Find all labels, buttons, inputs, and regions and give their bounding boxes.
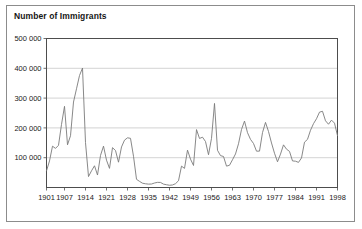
x-tick-label: 1914: [77, 193, 94, 202]
immigration-series-line: [47, 68, 338, 185]
x-tick-label: 1991: [308, 193, 325, 202]
y-tick-label: 500 000: [14, 34, 41, 43]
line-chart-svg: 500 000400 000300 000200 000100 000 1901…: [0, 0, 362, 229]
gridlines: [47, 39, 338, 158]
x-tick-label: 1901: [38, 193, 55, 202]
chart-plot-area: 500 000400 000300 000200 000100 000 1901…: [0, 0, 362, 229]
x-tick-label: 1956: [203, 193, 220, 202]
x-tick-label: 1970: [245, 193, 262, 202]
x-tick-label: 1977: [266, 193, 283, 202]
y-tick-label: 200 000: [14, 124, 41, 133]
y-axis-tick-labels: 500 000400 000300 000200 000100 000: [14, 34, 46, 162]
y-tick-label: 100 000: [14, 153, 41, 162]
plot-border: [47, 39, 338, 188]
y-tick-label: 400 000: [14, 64, 41, 73]
x-tick-label: 1921: [98, 193, 115, 202]
y-tick-label: 300 000: [14, 94, 41, 103]
x-tick-label: 1942: [161, 193, 178, 202]
x-axis-tick-labels: 1901190719141921192819351942194919561963…: [38, 193, 346, 202]
x-tick-label: 1984: [287, 193, 304, 202]
x-tick-label: 1998: [329, 193, 346, 202]
x-tick-label: 1928: [119, 193, 136, 202]
x-tick-label: 1949: [182, 193, 199, 202]
x-tick-label: 1907: [56, 193, 73, 202]
x-tick-label: 1963: [224, 193, 241, 202]
x-tick-label: 1935: [140, 193, 157, 202]
